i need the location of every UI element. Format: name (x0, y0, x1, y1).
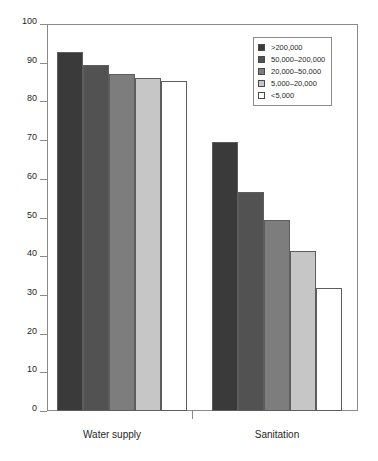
legend-item-label: 5,000–20,000 (271, 80, 317, 88)
x-axis-group-label-water-supply: Water supply (83, 429, 141, 440)
bar (212, 142, 238, 411)
legend-item-label: >200,000 (271, 44, 303, 52)
y-axis-tick-mark (40, 411, 47, 412)
y-axis-tick-label: 70 (27, 133, 37, 142)
legend-item-label: 50,000–200,000 (271, 56, 325, 64)
y-axis-tick-label: 20 (27, 327, 37, 336)
y-axis-tick-mark (40, 179, 47, 180)
legend-item[interactable]: 50,000–200,000 (258, 54, 325, 65)
legend-item-label: 20,000–50,000 (271, 68, 321, 76)
y-axis-tick-label: 10 (27, 365, 37, 374)
legend-swatch-icon (258, 56, 265, 63)
bar-chart: 100 90 80 70 60 50 40 30 (0, 0, 378, 461)
y-axis-tick-mark (40, 101, 47, 102)
legend-item[interactable]: <5,000 (258, 90, 325, 101)
y-axis-tick-label: 50 (27, 211, 37, 220)
y-axis-tick-mark (40, 24, 47, 25)
y-axis-tick-mark (40, 218, 47, 219)
y-axis-tick-mark (40, 372, 47, 373)
bar (316, 288, 342, 411)
x-axis-group-label-sanitation: Sanitation (255, 429, 299, 440)
bar (57, 52, 83, 411)
y-axis-tick-label: 80 (27, 94, 37, 103)
bar (238, 192, 264, 411)
bar (135, 78, 161, 411)
x-axis-group-divider-tick (192, 411, 193, 419)
y-axis-tick-label: 40 (27, 249, 37, 258)
legend-item[interactable]: 20,000–50,000 (258, 66, 325, 77)
legend-swatch-icon (258, 68, 265, 75)
legend-item[interactable]: >200,000 (258, 42, 325, 53)
legend-item[interactable]: 5,000–20,000 (258, 78, 325, 89)
legend-swatch-icon (258, 80, 265, 87)
y-axis-tick-label: 100 (22, 17, 37, 26)
bar (290, 251, 316, 411)
bar (264, 220, 290, 411)
legend-swatch-icon (258, 44, 265, 51)
y-axis-tick-label: 60 (27, 172, 37, 181)
y-axis-tick-label: 90 (27, 56, 37, 65)
y-axis-tick-mark (40, 334, 47, 335)
legend-item-label: <5,000 (271, 92, 294, 100)
bar (161, 81, 187, 411)
y-axis-tick-label: 30 (27, 288, 37, 297)
y-axis-tick-label: 0 (32, 404, 37, 413)
legend: >200,00050,000–200,00020,000–50,0005,000… (253, 37, 332, 106)
bar (83, 65, 109, 411)
y-axis-tick-mark (40, 295, 47, 296)
bar (109, 74, 135, 411)
y-axis: 100 90 80 70 60 50 40 30 (0, 0, 47, 461)
y-axis-tick-mark (40, 256, 47, 257)
y-axis-tick-mark (40, 63, 47, 64)
legend-swatch-icon (258, 92, 265, 99)
y-axis-tick-mark (40, 140, 47, 141)
x-axis: Water supply Sanitation (47, 411, 358, 461)
